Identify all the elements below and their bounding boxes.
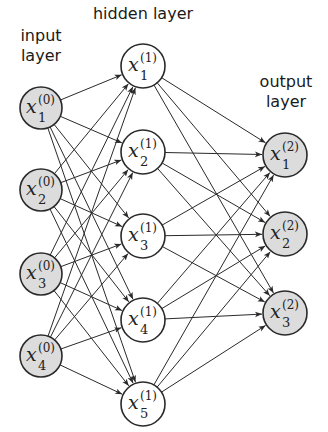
hidden-node-3: x3(1) [121,214,165,258]
node-superscript: (2) [282,298,299,312]
node-subscript: 2 [140,154,148,169]
node-superscript: (2) [282,140,299,154]
edge-input4-to-hidden1 [48,88,135,337]
edge-hidden4-to-output2 [162,246,265,309]
node-subscript: 3 [282,315,290,330]
node-variable: x [270,221,281,243]
output-node-3: x3(2) [263,291,307,335]
node-superscript: (1) [140,137,157,151]
edge-hidden5-to-output2 [157,252,270,387]
node-subscript: 3 [38,276,46,291]
output-layer-label: output layer [246,72,326,112]
node-superscript: (1) [140,221,157,235]
output-node-2: x2(2) [263,212,307,256]
node-subscript: 4 [140,322,148,337]
hidden-node-5: x5(1) [121,382,165,426]
node-superscript: (0) [38,259,55,273]
node-variable: x [128,53,139,75]
node-subscript: 1 [38,110,46,125]
node-superscript: (2) [282,219,299,233]
edge-hidden2-to-output1 [165,153,262,155]
node-variable: x [26,177,37,199]
node-subscript: 1 [282,157,290,172]
node-variable: x [128,223,139,245]
edge-hidden3-to-output2 [165,234,262,235]
edge-input4-to-hidden5 [60,365,122,394]
output-node-1: x1(2) [263,133,307,177]
node-subscript: 4 [38,358,46,373]
node-superscript: (1) [140,389,157,403]
node-superscript: (1) [140,51,157,65]
input-node-4: x4(0) [20,335,62,377]
node-subscript: 5 [140,406,148,421]
edge-input4-to-hidden2 [50,173,132,338]
node-variable: x [128,307,139,329]
node-variable: x [270,300,281,322]
node-variable: x [128,391,139,413]
edge-hidden3-to-output3 [162,247,264,303]
hidden-node-1: x1(1) [121,44,165,88]
node-variable: x [270,142,281,164]
input-layer-label: input layer [1,26,81,66]
node-variable: x [128,139,139,161]
input-node-3: x3(0) [20,253,62,295]
input-node-1: x1(0) [20,87,62,129]
node-subscript: 2 [282,236,290,251]
node-variable: x [26,95,37,117]
hidden-node-4: x4(1) [121,298,165,342]
input-node-2: x2(0) [20,169,62,211]
edge-hidden5-to-output3 [162,325,266,392]
edge-input2-to-hidden1 [54,84,128,174]
node-variable: x [26,343,37,365]
edge-hidden4-to-output1 [157,172,270,303]
hidden-layer-label: hidden layer [83,4,203,24]
node-subscript: 2 [38,192,46,207]
edge-hidden4-to-output3 [165,314,262,319]
node-superscript: (0) [38,341,55,355]
node-superscript: (1) [140,305,157,319]
node-superscript: (0) [38,175,55,189]
edge-input1-to-hidden1 [60,75,121,100]
edge-input4-to-hidden3 [55,254,129,341]
node-subscript: 1 [140,68,148,83]
node-subscript: 3 [140,238,148,253]
hidden-node-2: x2(1) [121,130,165,174]
node-superscript: (0) [38,93,55,107]
node-variable: x [26,261,37,283]
